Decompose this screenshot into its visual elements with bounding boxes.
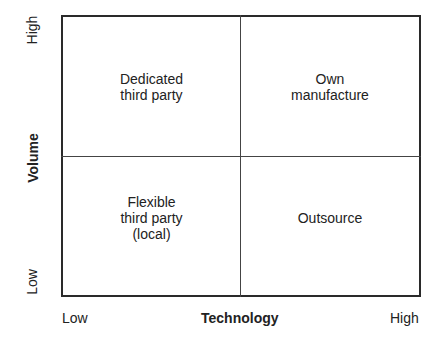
quadrant-top-right: Ownmanufacture [241,17,419,156]
x-axis-title: Technology [201,310,279,326]
x-axis-high-label: High [390,310,419,326]
y-axis-title: Volume [25,128,41,188]
quadrant-label-line: third party [120,210,182,226]
y-axis-high-label: High [24,10,40,50]
quadrant-label-line: third party [120,87,182,103]
quadrant-bottom-right: Outsource [241,157,419,295]
quadrant-label-line: Own [316,71,345,87]
quadrant-label-line: manufacture [291,87,369,103]
quadrant-label-line: Flexible [127,194,175,210]
quadrant-label-line: Outsource [298,210,363,226]
quadrant-top-left: Dedicatedthird party [63,17,240,156]
y-axis-low-label: Low [24,262,40,302]
quadrant-label-line: (local) [132,226,170,242]
quadrant-label-line: Dedicated [120,71,183,87]
x-axis-low-label: Low [62,310,88,326]
quadrant-bottom-left: Flexiblethird party(local) [63,157,240,295]
